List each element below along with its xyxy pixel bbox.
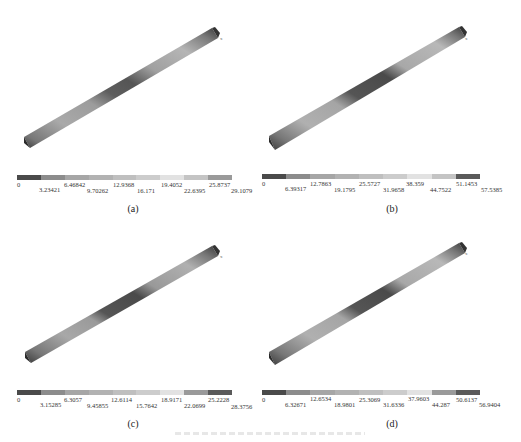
colorbar-segment: [208, 390, 232, 395]
colorbar-segment: [65, 390, 89, 395]
colorbar-tick: 6.46842: [64, 182, 85, 189]
colorbar-segment: [262, 390, 286, 395]
colorbar-tick: 19.4052: [161, 182, 182, 189]
colorbar-tick: 18.9801: [334, 402, 355, 409]
beam-contour-plot: x: [260, 222, 521, 387]
figure-caption: [175, 432, 365, 435]
colorbar-segment: [65, 175, 89, 180]
panel-caption: (b): [386, 203, 398, 214]
axis-label: x: [465, 36, 468, 41]
beam-contour-plot: x: [0, 0, 260, 165]
colorbar-tick: 15.7642: [136, 403, 157, 410]
colorbar-segment: [89, 390, 113, 395]
colorbar-segment: [113, 175, 137, 180]
colorbar-tick: 12.6534: [310, 396, 331, 403]
colorbar-segment: [41, 175, 65, 180]
colorbar-segment: [359, 174, 383, 179]
colorbar-tick: 16.171: [137, 188, 155, 195]
colorbar-segment: [456, 174, 480, 179]
colorbar-tick: 56.9404: [479, 402, 500, 409]
colorbar-segment: [310, 174, 334, 179]
colorbar-segment: [286, 174, 310, 179]
colorbar-segment: [17, 175, 41, 180]
colorbar-tick: 37.9603: [408, 396, 429, 403]
colorbar-tick: 50.6137: [456, 397, 477, 404]
panel-caption: (d): [386, 418, 398, 429]
colorbar-tick: 9.45855: [87, 403, 108, 410]
colorbar-tick: 22.6395: [184, 188, 205, 195]
colorbar-tick: 51.1453: [456, 181, 477, 188]
colorbar-segment: [136, 390, 160, 395]
beam-contour-plot: x: [0, 222, 260, 387]
panel-c: x 0 3.15285 6.3057 9.45855 12.6114 15.76…: [0, 222, 260, 437]
colorbar-segment: [335, 174, 359, 179]
colorbar-tick: 44.7522: [430, 187, 451, 194]
colorbar-tick: 25.2228: [208, 397, 229, 404]
beam-contour-plot: x: [260, 0, 521, 165]
colorbar-tick: 28.3756: [231, 404, 252, 411]
colorbar-tick: 38.359: [406, 181, 424, 188]
colorbar-tick: 25.8737: [209, 182, 230, 189]
colorbar-segment: [456, 390, 480, 395]
panel-caption: (a): [127, 203, 138, 214]
colorbar-tick: 19.1795: [334, 187, 355, 194]
colorbar-segment: [136, 175, 160, 180]
axis-label: x: [220, 36, 223, 41]
colorbar-tick: 25.5727: [359, 181, 380, 188]
colorbar-tick: 12.6114: [111, 397, 132, 404]
colorbar-segment: [359, 390, 383, 395]
colorbar-tick: 18.9171: [161, 397, 182, 404]
colorbar-tick: 22.0699: [184, 403, 205, 410]
colorbar-segment: [335, 390, 359, 395]
colorbar-segment: [432, 174, 456, 179]
colorbar-tick: 6.3057: [64, 397, 82, 404]
colorbar-segment: [262, 174, 286, 179]
axis-label: x: [465, 251, 468, 256]
colorbar-tick: 0: [262, 397, 265, 404]
colorbar-segment: [383, 174, 407, 179]
colorbar-tick: 29.1079: [231, 188, 252, 195]
colorbar-tick: 6.39317: [285, 186, 306, 193]
colorbar-segment: [41, 390, 65, 395]
panel-a: x 0 3.23421 6.46842 9.70262 12.9368 16.1…: [0, 0, 260, 215]
panel-caption: (c): [127, 418, 138, 429]
colorbar-segment: [160, 390, 184, 395]
colorbar-tick: 57.5385: [481, 187, 502, 194]
colorbar-segment: [383, 390, 407, 395]
colorbar-segment: [184, 175, 208, 180]
panel-d: x 0 6.32671 12.6534 18.9801 25.3069 31.6…: [260, 222, 520, 437]
colorbar-segment: [407, 174, 431, 179]
colorbar-tick: 0: [262, 181, 265, 188]
colorbar: [262, 390, 480, 395]
colorbar-tick: 0: [17, 182, 20, 189]
colorbar-segment: [286, 390, 310, 395]
colorbar-tick: 31.6336: [383, 402, 404, 409]
axis-label: x: [220, 254, 223, 259]
colorbar-tick: 3.15285: [40, 402, 61, 409]
colorbar-tick: 12.7863: [310, 181, 331, 188]
colorbar-segment: [160, 175, 184, 180]
colorbar-segment: [184, 390, 208, 395]
colorbar-tick: 12.9368: [113, 182, 134, 189]
colorbar-tick: 9.70262: [87, 188, 108, 195]
colorbar-tick: 25.3069: [359, 397, 380, 404]
colorbar-tick: 3.23421: [39, 187, 60, 194]
colorbar-segment: [432, 390, 456, 395]
colorbar-segment: [113, 390, 137, 395]
colorbar: [17, 390, 232, 395]
colorbar-tick: 31.9658: [383, 187, 404, 194]
colorbar-tick: 44.287: [432, 402, 450, 409]
colorbar-segment: [89, 175, 113, 180]
colorbar-segment: [17, 390, 41, 395]
colorbar-tick: 6.32671: [285, 402, 306, 409]
colorbar-tick: 0: [17, 397, 20, 404]
colorbar-segment: [208, 175, 232, 180]
colorbar: [262, 174, 480, 179]
panel-b: x 0 6.39317 12.7863 19.1795 25.5727 31.9…: [260, 0, 520, 215]
colorbar: [17, 175, 232, 180]
